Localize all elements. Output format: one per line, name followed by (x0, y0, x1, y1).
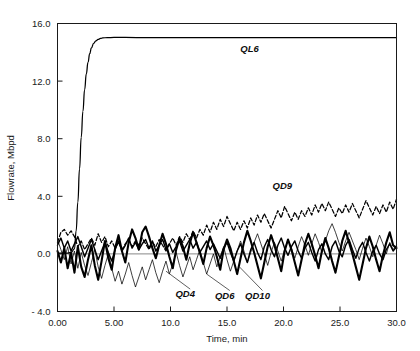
y-tick-label: 4.0 (37, 191, 50, 202)
curve-label-qd9: QD9 (273, 180, 293, 191)
y-axis-title: Flowrate, Mbpd (5, 135, 16, 200)
y-tick-label: 8.0 (37, 133, 50, 144)
curve-label-qd10: QD10 (245, 290, 271, 301)
x-tick-label: 0.00 (48, 317, 67, 328)
x-axis-title: Time, min (206, 333, 247, 344)
y-tick-label: 0.0 (37, 248, 50, 259)
x-tick-label: 10.0 (161, 317, 180, 328)
curve-label-ql6: QL6 (240, 43, 259, 54)
chart-svg: - 4.00.04.08.012.016.0 0.005.0010.015.02… (0, 0, 420, 351)
y-tick-label: 12.0 (32, 76, 51, 87)
y-tick-label: - 4.0 (31, 306, 50, 317)
curve-label-qd4: QD4 (175, 288, 195, 299)
curve-label-qd6: QD6 (215, 290, 235, 301)
flowrate-time-chart: - 4.00.04.08.012.016.0 0.005.0010.015.02… (0, 0, 420, 351)
chart-background (0, 0, 420, 351)
x-tick-label: 15.0 (218, 317, 237, 328)
x-tick-label: 30.0 (387, 317, 406, 328)
y-tick-label: 16.0 (32, 18, 51, 29)
x-tick-label: 5.00 (105, 317, 124, 328)
x-tick-label: 25.0 (331, 317, 350, 328)
x-tick-label: 20.0 (274, 317, 293, 328)
